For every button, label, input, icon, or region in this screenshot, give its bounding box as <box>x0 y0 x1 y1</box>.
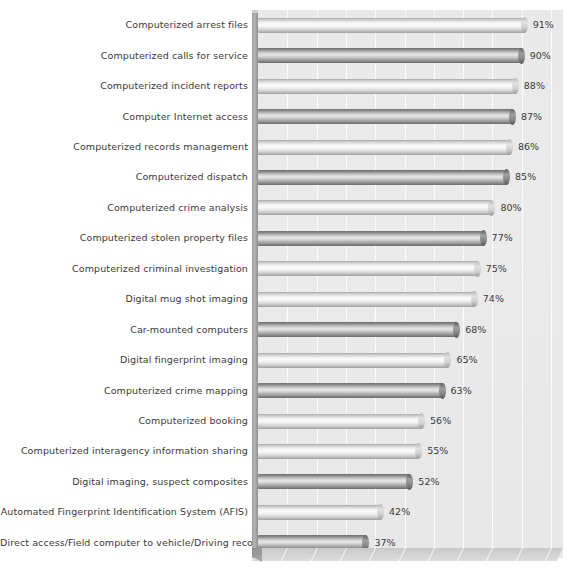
category-label: Computerized records management <box>0 142 248 152</box>
bar[interactable] <box>258 444 419 459</box>
bar-cylinder <box>258 109 513 124</box>
bar-end-cap <box>509 109 516 125</box>
bar-end-cap <box>471 291 478 307</box>
bar-cylinder <box>258 261 478 276</box>
bar-end-cap <box>444 352 451 368</box>
bar-end-cap <box>406 474 413 490</box>
category-label: Computerized crime mapping <box>0 386 248 396</box>
category-label: Car-mounted computers <box>0 325 248 335</box>
bar-end-cap <box>506 139 513 155</box>
bar-end-cap <box>480 230 487 246</box>
bar-value-label: 42% <box>389 507 410 517</box>
bar-cylinder <box>258 48 522 63</box>
bar-cylinder <box>258 292 475 307</box>
bar-cylinder <box>258 79 516 94</box>
bar-cylinder <box>258 200 492 215</box>
bar[interactable] <box>258 48 522 63</box>
bar-value-label: 85% <box>515 172 536 182</box>
bar[interactable] <box>258 353 448 368</box>
bar-chart: Computerized arrest filesComputerized ca… <box>0 0 572 584</box>
category-label: Direct access/Field computer to vehicle/… <box>0 538 248 548</box>
bar[interactable] <box>258 474 410 489</box>
plot-area: 91%90%88%87%86%85%80%77%75%74%68%65%63%5… <box>252 10 563 558</box>
bar-end-cap <box>453 322 460 338</box>
bar-end-cap <box>415 443 422 459</box>
category-label: Computerized interagency information sha… <box>0 446 248 456</box>
bar[interactable] <box>258 292 475 307</box>
category-label: Computerized stolen property files <box>0 233 248 243</box>
bar-end-cap <box>503 169 510 185</box>
bar-cylinder <box>258 18 525 33</box>
bar-end-cap <box>518 48 525 64</box>
bar-value-label: 56% <box>430 416 451 426</box>
bar[interactable] <box>258 140 510 155</box>
bar-value-label: 74% <box>483 294 504 304</box>
bar-cylinder <box>258 414 422 429</box>
bar-value-label: 68% <box>465 325 486 335</box>
bar-cylinder <box>258 170 507 185</box>
bar-cylinder <box>258 383 443 398</box>
bar-cylinder <box>258 474 410 489</box>
bar-end-cap <box>521 17 528 33</box>
bar-value-label: 88% <box>524 81 545 91</box>
category-label: Digital mug shot imaging <box>0 294 248 304</box>
bar-value-label: 63% <box>451 386 472 396</box>
bar[interactable] <box>258 322 457 337</box>
bar-cylinder <box>258 505 381 520</box>
category-label: Computerized calls for service <box>0 51 248 61</box>
category-label: Digital imaging, suspect composites <box>0 477 248 487</box>
bar-value-label: 91% <box>533 20 554 30</box>
bar-value-label: 77% <box>492 233 513 243</box>
category-label: Computerized crime analysis <box>0 203 248 213</box>
bar[interactable] <box>258 414 422 429</box>
category-label: Computerized dispatch <box>0 172 248 182</box>
bar-cylinder <box>258 322 457 337</box>
bar[interactable] <box>258 18 525 33</box>
bar[interactable] <box>258 383 443 398</box>
bar-value-label: 37% <box>374 538 395 548</box>
category-label: Computerized booking <box>0 416 248 426</box>
bar[interactable] <box>258 261 478 276</box>
bar[interactable] <box>258 200 492 215</box>
bar-value-label: 65% <box>456 355 477 365</box>
bar[interactable] <box>258 109 513 124</box>
bar[interactable] <box>258 231 484 246</box>
category-label-column: Computerized arrest filesComputerized ca… <box>0 10 248 558</box>
bar-end-cap <box>418 413 425 429</box>
category-label: Computer Internet access <box>0 112 248 122</box>
bar-end-cap <box>377 504 384 520</box>
bar-cylinder <box>258 231 484 246</box>
bar[interactable] <box>258 505 381 520</box>
bar-cylinder <box>258 353 448 368</box>
axis-left-wall-top <box>252 10 258 13</box>
bar[interactable] <box>258 170 507 185</box>
bar-end-cap <box>488 200 495 216</box>
bar-value-label: 90% <box>530 51 551 61</box>
bar-end-cap <box>439 383 446 399</box>
gridline-vertical <box>551 10 552 558</box>
bar-value-label: 75% <box>486 264 507 274</box>
category-label: Digital fingerprint imaging <box>0 355 248 365</box>
chart-floor <box>252 548 563 574</box>
category-label: Automated Fingerprint Identification Sys… <box>0 507 248 517</box>
bar-value-label: 55% <box>427 446 448 456</box>
bar-value-label: 52% <box>418 477 439 487</box>
gridline-vertical <box>522 10 523 558</box>
bar-value-label: 87% <box>521 112 542 122</box>
category-label: Computerized incident reports <box>0 81 248 91</box>
bar[interactable] <box>258 79 516 94</box>
category-label: Computerized arrest files <box>0 20 248 30</box>
bar-value-label: 80% <box>500 203 521 213</box>
bar-cylinder <box>258 140 510 155</box>
bar-end-cap <box>512 78 519 94</box>
category-label: Computerized criminal investigation <box>0 264 248 274</box>
bar-end-cap <box>474 261 481 277</box>
bar-value-label: 86% <box>518 142 539 152</box>
bar-cylinder <box>258 444 419 459</box>
